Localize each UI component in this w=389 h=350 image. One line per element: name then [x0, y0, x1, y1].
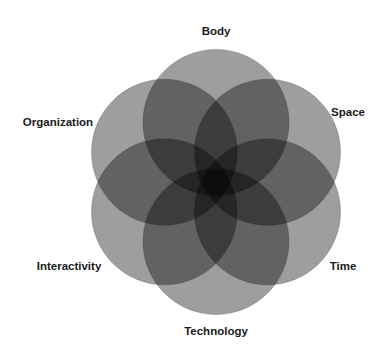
- label-body: Body: [202, 25, 231, 37]
- label-organization: Organization: [23, 116, 93, 128]
- label-space: Space: [331, 106, 365, 118]
- circles-layer: [0, 0, 389, 350]
- venn-diagram: Body Space Time Technology Interactivity…: [0, 0, 389, 350]
- label-technology: Technology: [184, 325, 248, 337]
- circle-organization: [92, 79, 238, 225]
- label-time: Time: [330, 260, 357, 272]
- label-interactivity: Interactivity: [37, 260, 102, 272]
